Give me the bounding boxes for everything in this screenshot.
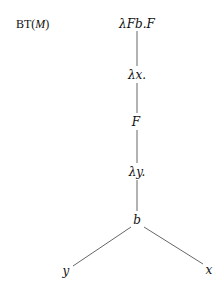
- node-F: F: [132, 115, 140, 129]
- node-lambda-x: λx.: [128, 68, 146, 82]
- node-root: λFb.F: [119, 17, 155, 31]
- edge-b-x: [144, 227, 203, 264]
- edge-b-y: [73, 227, 131, 266]
- node-y: y: [63, 264, 70, 278]
- tree-edges: [0, 0, 222, 298]
- node-lambda-y: λy.: [129, 165, 146, 179]
- node-b: b: [133, 213, 141, 227]
- node-x: x: [206, 263, 213, 277]
